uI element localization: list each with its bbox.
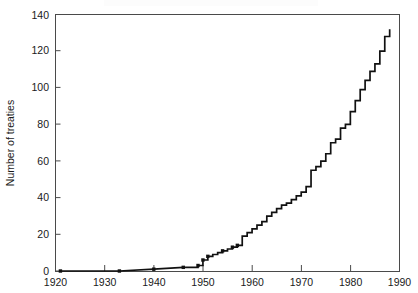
x-tick-label: 1980 bbox=[339, 276, 363, 288]
y-tick-label: 60 bbox=[37, 155, 49, 167]
y-axis-title: Number of treaties bbox=[4, 100, 16, 186]
treaties-step-line bbox=[60, 29, 389, 271]
treaties-line-chart: 0 20 40 60 80 100 120 140 1920 1930 1940… bbox=[0, 0, 418, 293]
plot-frame bbox=[56, 15, 400, 272]
x-tick-label: 1940 bbox=[142, 276, 166, 288]
series-marker bbox=[152, 267, 155, 270]
data-series-group bbox=[59, 29, 390, 273]
x-tick-label: 1990 bbox=[388, 276, 412, 288]
series-marker bbox=[196, 264, 199, 267]
y-tick-label: 40 bbox=[37, 191, 49, 203]
chart-figure: 0 20 40 60 80 100 120 140 1920 1930 1940… bbox=[0, 0, 418, 293]
series-marker bbox=[59, 269, 62, 272]
y-tick-label: 80 bbox=[37, 118, 49, 130]
x-tick-label: 1970 bbox=[290, 276, 314, 288]
treaties-point-markers bbox=[59, 244, 239, 273]
y-tick-label: 20 bbox=[37, 228, 49, 240]
x-tick-marks bbox=[56, 265, 400, 271]
y-tick-label: 140 bbox=[31, 9, 49, 21]
y-tick-label: 120 bbox=[31, 44, 49, 56]
y-tick-marks bbox=[56, 15, 61, 272]
x-tick-label: 1960 bbox=[241, 276, 265, 288]
series-marker bbox=[231, 245, 234, 248]
series-marker bbox=[221, 249, 224, 252]
y-tick-label: 100 bbox=[31, 81, 49, 93]
x-tick-label: 1950 bbox=[191, 276, 215, 288]
x-tick-labels: 1920 1930 1940 1950 1960 1970 1980 1990 bbox=[44, 276, 412, 288]
x-tick-label: 1930 bbox=[93, 276, 117, 288]
y-tick-labels: 0 20 40 60 80 100 120 140 bbox=[31, 9, 49, 277]
series-marker bbox=[182, 266, 185, 269]
series-marker bbox=[236, 244, 239, 247]
series-marker bbox=[118, 269, 121, 272]
series-marker bbox=[206, 255, 209, 258]
series-marker bbox=[201, 258, 204, 261]
x-tick-label: 1920 bbox=[44, 276, 68, 288]
